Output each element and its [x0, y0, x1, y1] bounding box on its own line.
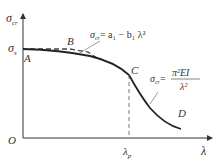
formula-parabola: σcr= a₁ − b₁ λ² — [90, 29, 145, 41]
point-b-label: B — [67, 35, 74, 47]
point-d-label: D — [177, 107, 186, 119]
formula-euler-numerator: π²EI — [172, 67, 190, 78]
critical-stress-diagram: σcr σs A B C D O λ λp σcr= a₁ − b₁ λ² σc… — [0, 0, 218, 164]
leader-euler — [150, 92, 158, 104]
point-a-label: A — [23, 52, 31, 64]
point-c-label: C — [131, 64, 139, 76]
origin-label: O — [8, 134, 16, 146]
parabola-curve — [23, 49, 129, 75]
x-axis-label: λ — [200, 144, 206, 158]
sigma-s-label: σs — [8, 41, 17, 57]
lambda-p-label: λp — [122, 145, 132, 160]
y-axis-label: σcr — [6, 11, 18, 27]
formula-euler-lhs: σcr= — [150, 73, 166, 85]
formula-euler-denominator: λ² — [179, 81, 188, 92]
